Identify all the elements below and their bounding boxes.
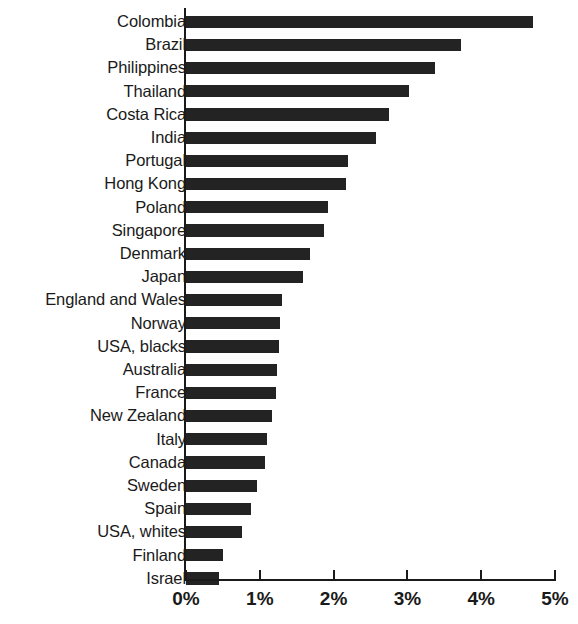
bar [186, 224, 324, 236]
bar [186, 433, 267, 445]
category-label: Brazil [4, 33, 186, 56]
bar-row: Spain [0, 497, 578, 520]
x-axis-tick-label: 1% [230, 588, 290, 610]
category-label: Israel [4, 567, 186, 590]
bar-row: Brazil [0, 33, 578, 56]
bar-row: Thailand [0, 80, 578, 103]
x-axis-tick-label: 3% [377, 588, 437, 610]
bar-row: Finland [0, 544, 578, 567]
x-axis-tick [259, 570, 261, 579]
category-label: Sweden [4, 474, 186, 497]
x-axis-tick [554, 570, 556, 579]
bar-row: USA, blacks [0, 335, 578, 358]
category-label: Spain [4, 497, 186, 520]
bar-row: USA, whites [0, 520, 578, 543]
bar [186, 132, 376, 144]
y-axis-line [184, 8, 186, 581]
bar-row: Poland [0, 196, 578, 219]
category-label: Singapore [4, 219, 186, 242]
category-label: Portugal [4, 149, 186, 172]
category-label: Thailand [4, 80, 186, 103]
category-label: France [4, 381, 186, 404]
bar-row: Sweden [0, 474, 578, 497]
bar [186, 340, 279, 352]
bar [186, 549, 223, 561]
bar-row: Costa Rica [0, 103, 578, 126]
bar [186, 248, 310, 260]
bar [186, 16, 533, 28]
bar [186, 39, 461, 51]
category-label: USA, whites [4, 520, 186, 543]
bar-chart: ColombiaBrazilPhilippinesThailandCosta R… [0, 0, 578, 624]
bar-row: India [0, 126, 578, 149]
bar [186, 178, 346, 190]
bar-row: Hong Kong [0, 172, 578, 195]
bar-row: Singapore [0, 219, 578, 242]
bar-row: New Zealand [0, 404, 578, 427]
x-axis-tick [480, 570, 482, 579]
x-axis-tick-label: 2% [304, 588, 364, 610]
category-label: India [4, 126, 186, 149]
x-axis-tick [333, 570, 335, 579]
bar-row: Italy [0, 428, 578, 451]
bar [186, 503, 251, 515]
bar [186, 410, 272, 422]
x-axis-tick-label: 5% [525, 588, 578, 610]
bar [186, 364, 277, 376]
category-label: Costa Rica [4, 103, 186, 126]
bar [186, 201, 328, 213]
category-label: Hong Kong [4, 172, 186, 195]
category-label: Philippines [4, 56, 186, 79]
bar-row: Canada [0, 451, 578, 474]
bar [186, 480, 257, 492]
category-label: Denmark [4, 242, 186, 265]
bar-row: France [0, 381, 578, 404]
category-label: Canada [4, 451, 186, 474]
bar [186, 155, 348, 167]
category-label: Finland [4, 544, 186, 567]
plot-area: ColombiaBrazilPhilippinesThailandCosta R… [0, 0, 578, 624]
category-label: Norway [4, 312, 186, 335]
bar [186, 271, 303, 283]
category-label: New Zealand [4, 404, 186, 427]
x-axis-tick-label: 0% [156, 588, 216, 610]
bar-row: Australia [0, 358, 578, 381]
bar [186, 294, 282, 306]
category-label: England and Wales [4, 288, 186, 311]
bar [186, 456, 265, 468]
x-axis-tick-label: 4% [451, 588, 511, 610]
bar-row: Colombia [0, 10, 578, 33]
category-label: Colombia [4, 10, 186, 33]
bar-row: Japan [0, 265, 578, 288]
bar-row: England and Wales [0, 288, 578, 311]
bar-row: Portugal [0, 149, 578, 172]
bar-row: Denmark [0, 242, 578, 265]
category-label: Japan [4, 265, 186, 288]
category-label: USA, blacks [4, 335, 186, 358]
bar [186, 108, 389, 120]
bar [186, 387, 276, 399]
x-axis-tick [406, 570, 408, 579]
category-label: Australia [4, 358, 186, 381]
x-axis-line [184, 579, 556, 581]
x-axis-tick [185, 570, 187, 579]
bar [186, 526, 242, 538]
bar [186, 85, 409, 97]
category-label: Poland [4, 196, 186, 219]
bar [186, 62, 435, 74]
category-label: Italy [4, 428, 186, 451]
bar [186, 317, 280, 329]
bar-row: Philippines [0, 56, 578, 79]
bar-row: Norway [0, 312, 578, 335]
